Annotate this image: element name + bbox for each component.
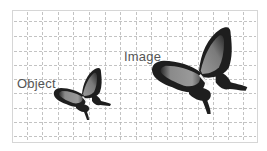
image-butterfly — [148, 24, 250, 114]
image-label: Image — [124, 50, 161, 63]
object-label: Object — [17, 77, 56, 90]
diagram-canvas: Object Image — [0, 0, 267, 151]
object-butterfly — [52, 66, 112, 120]
